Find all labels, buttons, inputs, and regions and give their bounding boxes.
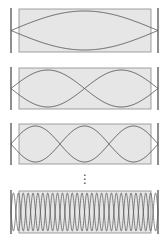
mode-panel-1 xyxy=(11,8,158,53)
ellipsis-label: ⋮ xyxy=(79,170,89,188)
mode-panel-3 xyxy=(11,123,158,165)
tube-box xyxy=(19,9,151,52)
mode-panel-n xyxy=(11,190,158,234)
mode-panel-2 xyxy=(11,67,158,110)
tube-box xyxy=(19,124,151,164)
standing-wave-diagram xyxy=(0,0,167,236)
